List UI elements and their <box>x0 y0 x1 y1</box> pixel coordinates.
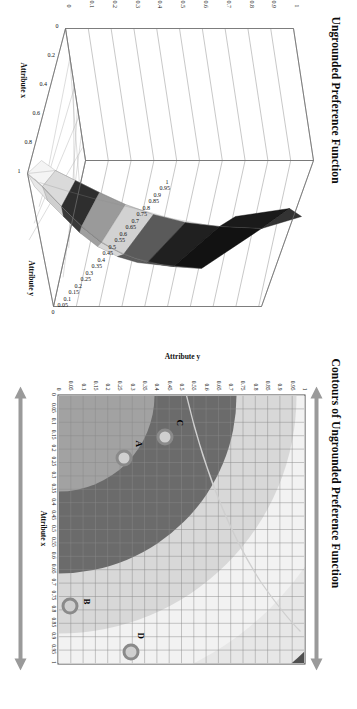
contour-xtick-9: 0.45 <box>50 510 56 520</box>
surface-xtick-2: 0.4 <box>39 80 47 86</box>
surface-xtick-3: 0.6 <box>32 109 40 115</box>
surface-xtick-0: 0 <box>55 22 58 28</box>
contour-xtick-15: 0.75 <box>50 590 56 600</box>
surface-ytick-10: 0.5 <box>108 243 116 249</box>
contour-ytick-4: 0.2 <box>104 383 110 390</box>
surface-plot-title: Ungrounded Preference Function <box>329 16 341 183</box>
surface-ytick-16: 0.8 <box>142 204 150 210</box>
contour-xtick-19: 0.95 <box>50 644 56 654</box>
contour-ytick-9: 0.45 <box>166 380 172 390</box>
surface-ytick-0: 0 <box>51 308 54 314</box>
contour-marker-c-label: C <box>174 419 184 426</box>
surface-ytick-6: 0.3 <box>85 269 93 275</box>
contour-xtick-17: 0.85 <box>50 617 56 627</box>
x-direction-arrow-icon <box>13 386 27 670</box>
surface-plot-graphic <box>13 10 323 340</box>
contour-xtick-6: 0.3 <box>50 471 56 478</box>
contour-y-axis-label: Attribute y <box>164 352 200 361</box>
surface-xtick-1: 0.2 <box>47 51 55 57</box>
contour-marker-a-label: A <box>133 440 143 447</box>
contour-marker-b-label: B <box>81 598 91 604</box>
contour-marker-a[interactable] <box>115 449 132 466</box>
surface-ztick-3: 0.3 <box>134 0 140 8</box>
contour-marker-d[interactable] <box>122 643 139 660</box>
surface-ytick-8: 0.4 <box>97 256 105 262</box>
surface-ztick-10: 1 <box>293 4 299 7</box>
surface-ztick-0: 0 <box>65 4 71 7</box>
surface-ytick-18: 0.9 <box>153 191 161 197</box>
figure-canvas: Ungrounded Preference Function <box>0 0 357 709</box>
contour-xtick-4: 0.2 <box>50 444 56 451</box>
contour-plot-graphic <box>58 395 304 663</box>
contour-x-axis-label: Attribute x <box>38 510 47 546</box>
contour-plot-area: A B C D <box>57 394 305 664</box>
contour-xtick-11: 0.55 <box>50 536 56 546</box>
contour-xtick-16: 0.8 <box>50 605 56 612</box>
contour-ytick-15: 0.75 <box>240 380 246 390</box>
y-direction-arrow-icon <box>309 386 323 670</box>
contour-xtick-3: 0.15 <box>50 429 56 439</box>
contour-ytick-1: 0.05 <box>67 380 73 390</box>
contour-marker-c[interactable] <box>156 428 173 445</box>
surface-ytick-4: 0.2 <box>74 282 82 288</box>
contour-xtick-5: 0.25 <box>50 456 56 466</box>
contour-xtick-0: 0 <box>50 393 56 396</box>
contour-marker-b[interactable] <box>61 597 78 614</box>
contour-ytick-0: 0 <box>55 387 61 390</box>
surface-plot-area: 0 0.1 0.2 0.3 0.4 0.5 0.6 0.7 0.8 0.9 1 … <box>13 10 323 340</box>
surface-ytick-17: 0.85 <box>148 197 159 203</box>
surface-ytick-11: 0.55 <box>114 236 125 242</box>
surface-ytick-14: 0.7 <box>131 217 139 223</box>
surface-ytick-9: 0.45 <box>102 249 113 255</box>
contour-xtick-8: 0.4 <box>50 498 56 505</box>
contour-marker-d-label: D <box>135 632 145 639</box>
surface-ztick-8: 0.8 <box>248 0 254 8</box>
contour-ytick-2: 0.1 <box>80 383 86 390</box>
contour-xtick-18: 0.9 <box>50 632 56 639</box>
contour-ytick-11: 0.55 <box>190 380 196 390</box>
surface-ytick-19: 0.95 <box>159 184 170 190</box>
surface-ztick-9: 0.9 <box>270 0 276 8</box>
surface-x-axis-label: Attribute x <box>18 62 27 98</box>
contour-xtick-20: 1 <box>50 661 56 664</box>
contour-xtick-7: 0.35 <box>50 483 56 493</box>
contour-ytick-16: 0.8 <box>252 383 258 390</box>
contour-ytick-6: 0.3 <box>129 383 135 390</box>
contour-ytick-14: 0.7 <box>227 383 233 390</box>
contour-ytick-18: 0.9 <box>276 383 282 390</box>
surface-ytick-3: 0.15 <box>68 288 79 294</box>
contour-ytick-12: 0.6 <box>203 383 209 390</box>
surface-ztick-7: 0.7 <box>225 0 231 8</box>
contour-xtick-14: 0.7 <box>50 578 56 585</box>
surface-ytick-2: 0.1 <box>63 295 71 301</box>
surface-ytick-1: 0.05 <box>57 301 68 307</box>
surface-ztick-2: 0.2 <box>111 0 117 8</box>
contour-ytick-7: 0.35 <box>141 380 147 390</box>
surface-ytick-7: 0.35 <box>91 262 102 268</box>
contour-xtick-1: 0.05 <box>50 402 56 412</box>
surface-ztick-1: 0.1 <box>88 0 94 8</box>
surface-plot-panel: Ungrounded Preference Function <box>0 0 357 350</box>
contour-xtick-2: 0.1 <box>50 417 56 424</box>
contour-xtick-13: 0.65 <box>50 563 56 573</box>
surface-xtick-4: 0.8 <box>24 138 32 144</box>
contour-ytick-8: 0.4 <box>153 383 159 390</box>
contour-ytick-17: 0.85 <box>264 380 270 390</box>
surface-ytick-20: 1 <box>165 178 168 184</box>
contour-xtick-12: 0.6 <box>50 551 56 558</box>
surface-ytick-15: 0.75 <box>136 210 147 216</box>
contour-ytick-19: 0.95 <box>289 380 295 390</box>
contour-ytick-10: 0.5 <box>178 383 184 390</box>
contour-ytick-3: 0.15 <box>92 380 98 390</box>
contour-plot-panel: Contours of Ungrounded Preference Functi… <box>0 350 357 709</box>
surface-y-axis-label: Attribute y <box>26 260 35 296</box>
surface-xtick-5: 1 <box>17 167 20 173</box>
surface-ztick-6: 0.6 <box>202 0 208 8</box>
contour-ytick-13: 0.65 <box>215 380 221 390</box>
surface-ztick-4: 0.4 <box>156 0 162 8</box>
contour-xtick-10: 0.5 <box>50 525 56 532</box>
surface-ytick-12: 0.6 <box>119 230 127 236</box>
surface-ytick-13: 0.65 <box>125 223 136 229</box>
surface-ytick-5: 0.25 <box>80 275 91 281</box>
contour-plot-title: Contours of Ungrounded Preference Functi… <box>329 358 341 588</box>
